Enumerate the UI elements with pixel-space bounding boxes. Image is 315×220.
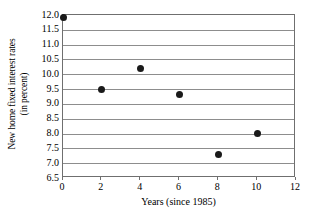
y-axis-tick-label: 11.5 [26,23,59,34]
data-point-series [63,15,294,176]
data-point [137,65,144,72]
x-axis-tick-mark [62,177,63,180]
y-axis-tick-label: 9.0 [26,97,59,108]
data-point [215,151,222,158]
y-axis-tick-labels: 6.57.07.58.08.59.09.510.010.511.011.512.… [26,8,59,184]
y-axis-tick-label: 10.5 [26,53,59,64]
x-axis-tick-label: 10 [242,181,270,193]
y-axis-tick-label: 7.5 [26,142,59,153]
x-axis-tick-mark [178,177,179,180]
scatter-chart-figure: New home fixed interest rates (in percen… [0,0,315,220]
y-axis-tick-label: 8.0 [26,127,59,138]
x-axis-tick-labels: 024681012 [62,181,295,195]
x-axis-title: Years (since 1985) [62,196,295,208]
plot-area [62,14,295,177]
x-axis-tick-mark [295,177,296,180]
x-axis-tick-mark [217,177,218,180]
y-axis-tick-label: 12.0 [26,9,59,20]
x-axis-tick-mark [256,177,257,180]
y-axis-tick-label: 9.5 [26,83,59,94]
x-axis-tick-mark [139,177,140,180]
y-axis-tick-label: 10.0 [26,68,59,79]
x-axis-tick-label: 2 [87,181,115,193]
x-axis-tick-label: 4 [126,181,154,193]
data-point [60,14,67,21]
y-axis-tick-label: 11.0 [26,38,59,49]
x-axis-tick-label: 0 [48,181,76,193]
x-axis-tick-label: 12 [281,181,309,193]
data-point [176,91,183,98]
y-axis-tick-label: 7.0 [26,157,59,168]
y-axis-tick-label: 8.5 [26,112,59,123]
x-axis-tick-mark [100,177,101,180]
y-axis-title-line-1: New home fixed interest rates [7,10,19,178]
x-axis-tick-label: 6 [165,181,193,193]
x-axis-tick-label: 8 [203,181,231,193]
data-point [98,86,105,93]
data-point [254,130,261,137]
